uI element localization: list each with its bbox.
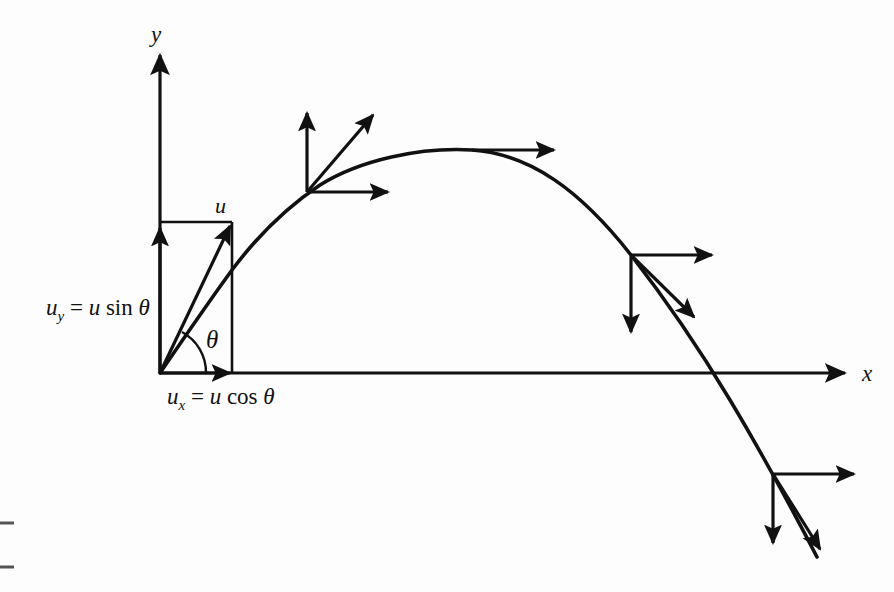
launch-point-vectors: u θ [160,193,230,373]
ux-angle: θ [263,384,274,409]
ascending-velocity-vector [307,115,373,192]
initial-velocity-label: u [215,193,226,218]
descending-velocity-vector [631,255,694,317]
landing-velocity-vector [773,474,820,549]
initial-velocity-vector [160,226,230,373]
trajectory-curve [160,150,817,557]
ux-equation-label: ux = u cos θ [167,384,275,413]
uy-rhs-var: u [89,295,101,320]
uy-angle: θ [139,295,150,320]
uy-equation-label: uy = u sin θ [46,295,150,324]
x-axis-label: x [861,361,873,386]
figure-canvas: x y u θ [0,0,894,592]
uy-function: sin [106,295,133,320]
ux-equals: = [191,384,204,409]
projectile-motion-figure: x y u θ [0,0,894,592]
uy-equals: = [70,295,83,320]
landing-approach-point-vectors [773,474,854,549]
ux-rhs-var: u [210,384,222,409]
ux-function: cos [227,384,258,409]
angle-label: θ [206,326,218,353]
axes-group: x y [149,22,873,386]
descending-point-vectors [631,255,712,332]
ux-var: u [167,384,179,409]
y-axis-label: y [149,22,162,47]
ascending-point-vectors [307,113,388,192]
uy-var: u [46,295,58,320]
uy-subscript: y [56,308,65,324]
trajectory-group [160,150,817,557]
crop-marks-group [0,523,14,567]
